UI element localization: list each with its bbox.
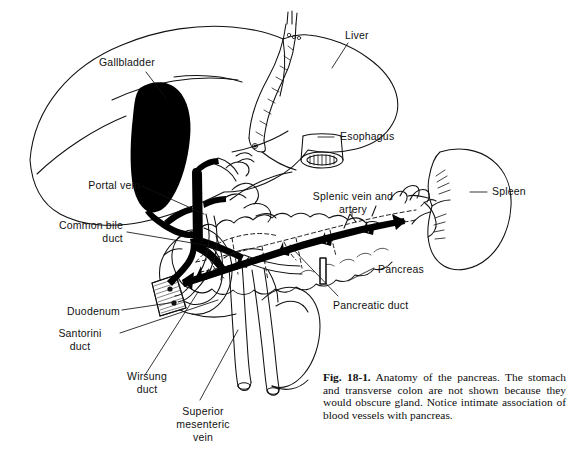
leader-liver bbox=[332, 43, 348, 68]
figure-page: Gallbladder Liver Esophagus Spleen Porta… bbox=[0, 0, 574, 462]
label-splenic-vessels-line2: artery bbox=[293, 203, 413, 216]
label-spleen: Spleen bbox=[492, 185, 526, 198]
esophagus-top-stub-c bbox=[296, 13, 297, 24]
portal-vein-left-branch bbox=[164, 206, 193, 226]
sma-tube-right bbox=[264, 268, 279, 388]
portal-vein-upper-fork bbox=[196, 158, 219, 172]
esophagus-lumen-hatch bbox=[310, 155, 334, 165]
hepatic-duct-stub bbox=[236, 153, 252, 156]
label-smv-line3: vein bbox=[160, 431, 246, 444]
mesentery-mass bbox=[262, 287, 320, 387]
leader-smv bbox=[200, 330, 238, 400]
label-splenic-vessels-line1: Splenic vein and bbox=[293, 190, 413, 203]
label-common-bile-duct-line2: duct bbox=[10, 232, 123, 245]
label-wirsung-duct-line1: Wirsung bbox=[108, 370, 186, 383]
vessel-branch-down bbox=[268, 270, 278, 302]
label-gallbladder: Gallbladder bbox=[99, 56, 155, 69]
label-portal-vein: Portal vein bbox=[10, 179, 140, 192]
mesentery-inner-fold bbox=[276, 301, 308, 312]
esophagus-top-stub-a bbox=[287, 12, 288, 24]
spleen-hilum-notch bbox=[432, 200, 450, 206]
label-liver: Liver bbox=[345, 29, 369, 42]
smv-cut-lumen-left bbox=[238, 383, 250, 389]
label-smv-line2: mesenteric bbox=[160, 418, 246, 431]
spleen-vessel-b bbox=[412, 212, 430, 224]
pancreas-tail-cap bbox=[424, 202, 436, 237]
leader-pancreas bbox=[348, 268, 374, 281]
label-santorini-duct-line1: Santorini bbox=[42, 327, 118, 340]
liver-inferior-surface bbox=[262, 152, 296, 170]
label-esophagus: Esophagus bbox=[340, 130, 394, 143]
papilla-minor bbox=[171, 300, 176, 305]
figure-number: Fig. 18-1. bbox=[323, 371, 371, 383]
label-wirsung-duct-line2: duct bbox=[108, 383, 186, 396]
esophagus-tube-right bbox=[264, 24, 296, 140]
splenic-vessel-arrowhead-right bbox=[392, 214, 406, 230]
splenic-bracket-left bbox=[344, 214, 356, 228]
liver-lobe-edge bbox=[174, 76, 242, 82]
gallbladder-body bbox=[131, 82, 191, 212]
sma-cut-lumen bbox=[267, 388, 279, 394]
spleen-hilar-striations bbox=[434, 170, 450, 239]
figure-caption: Fig. 18-1. Anatomy of the pancreas. The … bbox=[323, 371, 566, 421]
omentum-curve bbox=[230, 172, 292, 200]
sma-tube-left bbox=[252, 270, 267, 390]
label-duodenum: Duodenum bbox=[10, 305, 120, 318]
portal-vein-main bbox=[192, 168, 226, 273]
smv-tube-right bbox=[242, 264, 251, 382]
liver-fissure-lower bbox=[37, 116, 126, 174]
papilla-major bbox=[167, 286, 172, 291]
label-pancreatic-duct: Pancreatic duct bbox=[333, 299, 408, 312]
label-smv-line1: Superior bbox=[160, 405, 246, 418]
label-santorini-duct-line2: duct bbox=[42, 340, 118, 353]
vessel-loop-head-3 bbox=[244, 204, 271, 223]
label-pancreas: Pancreas bbox=[378, 263, 424, 276]
spleen-outline bbox=[428, 149, 511, 270]
portal-vein-right-branch bbox=[203, 196, 226, 208]
esophagus-stump-top bbox=[303, 134, 341, 136]
label-common-bile-duct-line1: Common bile bbox=[10, 219, 123, 232]
smv-tube-left bbox=[229, 268, 238, 386]
